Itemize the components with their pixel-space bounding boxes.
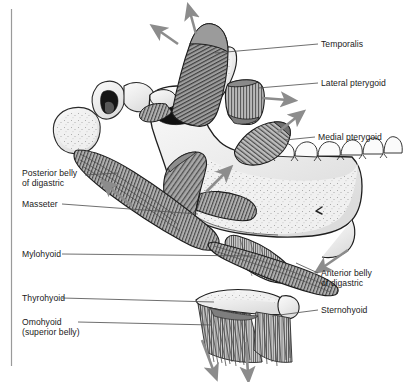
temporalis-muscle [139, 24, 228, 127]
label-mylohyoid: Mylohyoid [22, 249, 61, 259]
label-medial-pterygoid: Medial pterygoid [318, 132, 382, 142]
arrow-temporalis-upleft [158, 30, 178, 44]
label-omohyoid-line2: (superior belly) [22, 327, 80, 337]
arrow-lateral-pterygoid-right [262, 98, 288, 100]
arrow-temporalis-up [190, 12, 196, 34]
label-thyrohyoid: Thyrohyoid [22, 293, 65, 303]
label-posterior-belly-of-digastric-line2: of digastric [22, 178, 64, 188]
label-omohyoid-line1: Omohyoid [22, 317, 62, 327]
label-anterior-belly-of-digastric-line2: of digastric [321, 278, 363, 288]
anterior-belly-of-digastric-muscle [208, 242, 338, 296]
label-lateral-pterygoid: Lateral pterygoid [321, 78, 386, 88]
anatomy-figure: Temporalis Lateral pterygoid Medial pter… [0, 0, 409, 382]
label-temporalis: Temporalis [321, 39, 363, 49]
label-sternohyoid: Sternohyoid [321, 305, 367, 315]
label-posterior-belly-of-digastric-line1: Posterior belly [22, 168, 77, 178]
leader-thyrohyoid [62, 298, 214, 302]
lateral-pterygoid-muscle [225, 80, 264, 125]
label-anterior-belly-of-digastric-line1: Anterior belly [321, 268, 372, 278]
leader-lateral-pterygoid [258, 83, 318, 88]
label-masseter: Masseter [22, 199, 58, 209]
leader-omohyoid [78, 322, 212, 325]
